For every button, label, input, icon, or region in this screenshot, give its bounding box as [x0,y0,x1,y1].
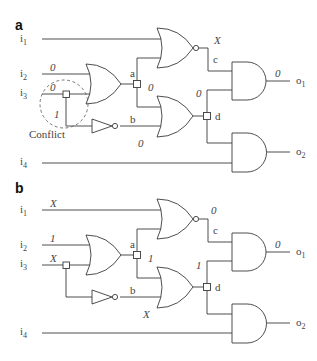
value-o1: 0 [275,67,281,79]
output-label-o1: o1 [296,245,306,260]
inverter-bubble [112,123,117,128]
input-label-i3: i3 [20,257,27,272]
not-gate-b [92,119,112,133]
input-label-i4: i4 [20,325,27,340]
nor-gate-c [157,199,193,239]
node-label-d: d [215,110,221,122]
or-gate-a [86,64,121,104]
value-i2: 1 [50,232,56,244]
input-label-i2: i2 [20,238,27,253]
output-label-o1: o1 [296,74,306,89]
node-label-a: a [130,238,135,250]
fanout-box-d [204,284,211,291]
node-label-b: b [130,113,136,125]
not-gate-b [92,290,112,304]
fanout-box-i3 [63,262,70,269]
node-label-b: b [130,284,136,296]
value-i3-branch: 1 [54,108,60,120]
node-label-c: c [213,53,218,65]
value-b: 0 [138,137,144,149]
value-c: 0 [211,204,217,216]
value-i3: X [49,252,58,264]
and-gate-o1 [232,62,266,100]
value-i3: 0 [50,81,56,93]
value-a: 0 [148,81,154,93]
or-gate-d [157,96,193,137]
nor-bubble [193,45,198,50]
value-d: 0 [196,87,202,99]
panel-a: a i1 i2 i3 i4 [15,17,306,172]
output-label-o2: o2 [296,145,306,160]
value-d: 1 [196,259,202,271]
output-label-o2: o2 [296,316,306,331]
nor-bubble [193,216,198,221]
and-gate-o2 [232,133,267,172]
node-label-d: d [215,281,221,293]
conflict-circle [40,80,88,128]
input-label-i4: i4 [20,155,27,170]
fanout-box-a [134,81,141,88]
and-gate-o1 [232,233,266,271]
fanout-box-d [204,113,211,120]
node-label-c: c [213,224,218,236]
fanout-box-i3 [63,91,70,98]
value-i1: X [49,197,58,209]
fanout-box-a [134,252,141,259]
input-label-i3: i3 [20,86,27,101]
circuit-diagram: a i1 i2 i3 i4 [0,0,317,361]
value-b: X [142,308,151,320]
panel-b: b i1 i2 i3 i4 a b c d o1 o2 X [15,180,306,343]
input-label-i1: i1 [20,32,27,47]
and-gate-o2 [232,304,267,343]
inverter-bubble [112,294,117,299]
value-i2: 0 [50,61,56,73]
conflict-label: Conflict [29,128,65,140]
input-label-i2: i2 [20,67,27,82]
or-gate-d [157,267,193,308]
value-c: X [213,34,222,46]
input-label-i1: i1 [20,203,27,218]
value-o1: 0 [275,238,281,250]
or-gate-a [86,235,121,275]
panel-label-b: b [15,180,24,196]
nor-gate-c [157,28,193,68]
value-a: 1 [148,252,154,264]
node-label-a: a [130,67,135,79]
panel-label-a: a [15,17,23,33]
